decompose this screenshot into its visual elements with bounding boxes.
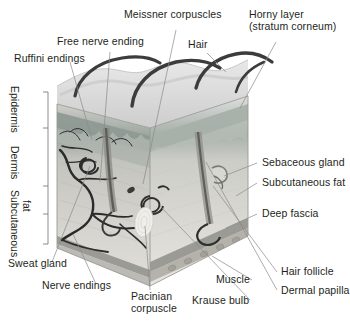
label-horny-layer-line2: (stratum corneum)	[249, 21, 336, 33]
label-dermal-papilla: Dermal papilla	[281, 285, 350, 297]
label-pacinian-line1: Pacinian	[131, 291, 172, 303]
label-ruffini-endings: Ruffini endings	[14, 53, 85, 65]
label-subcutaneous-fat: Subcutaneous fat	[262, 177, 345, 189]
layer-label-subcutaneous: Subcutaneous	[9, 190, 21, 257]
label-hair-follicle: Hair follicle	[281, 266, 334, 278]
label-krause-bulb: Krause bulb	[192, 295, 249, 307]
label-sweat-gland: Sweat gland	[8, 258, 67, 270]
label-muscle: Muscle	[216, 274, 250, 286]
label-deep-fascia: Deep fascia	[262, 208, 319, 220]
label-sebaceous-gland: Sebaceous gland	[262, 157, 345, 169]
label-free-nerve-ending: Free nerve ending	[57, 36, 144, 48]
layer-label-epidermis: Epidermis	[9, 86, 21, 133]
label-horny-layer-line1: Horny layer	[249, 9, 304, 21]
label-hair: Hair	[188, 39, 208, 51]
layer-label-fat: fat	[21, 200, 33, 212]
right-face	[150, 96, 248, 286]
layer-label-dermis: Dermis	[9, 146, 21, 179]
label-pacinian-line2: corpuscle	[131, 303, 177, 315]
label-meissner-corpuscles: Meissner corpuscles	[124, 9, 222, 21]
label-nerve-endings: Nerve endings	[42, 280, 111, 292]
layer-bracket-group	[43, 92, 48, 244]
